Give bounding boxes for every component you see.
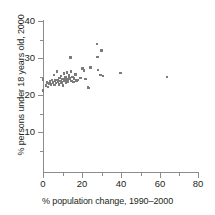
scatter-point — [56, 70, 59, 73]
scatter-point — [79, 77, 82, 80]
scatter-point — [67, 80, 70, 83]
scatter-point — [96, 56, 99, 59]
scatter-point — [69, 56, 72, 59]
scatter-point — [84, 78, 87, 81]
scatter-point — [42, 89, 45, 92]
scatter-point — [74, 73, 77, 76]
scatter-point — [53, 74, 56, 77]
scatter-point — [83, 69, 86, 72]
scatter-point — [119, 72, 122, 75]
scatter-point — [66, 71, 69, 74]
scatter-point — [47, 86, 50, 89]
scatter-point — [62, 84, 65, 87]
scatter-point — [97, 69, 100, 72]
y-axis-title: % persons under 18 years old, 2000 — [16, 0, 26, 175]
scatter-point — [100, 49, 103, 52]
scatter-point — [70, 70, 73, 73]
scatter-point — [89, 66, 92, 69]
scatter-point — [166, 76, 169, 79]
scatter-point — [88, 87, 91, 90]
scatter-point — [42, 78, 45, 81]
scatter-chart-figure: 40 30 20 10 0 20 40 60 80 % population c… — [0, 0, 215, 215]
x-axis-title: % population change, 1990–2000 — [0, 196, 215, 206]
scatter-point — [72, 81, 75, 84]
scatter-point — [96, 43, 99, 46]
scatter-point — [102, 75, 105, 78]
scatter-points-layer — [0, 0, 215, 215]
